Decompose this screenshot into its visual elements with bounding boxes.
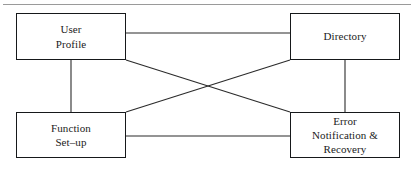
- architecture-diagram: User Profile Directory Function Set–up E…: [0, 0, 414, 172]
- node-error-recovery-label: Error Notification & Recovery: [309, 114, 381, 156]
- node-function-setup: Function Set–up: [16, 112, 126, 158]
- node-function-setup-label: Function Set–up: [48, 121, 94, 149]
- node-user-profile-label: User Profile: [53, 22, 90, 50]
- node-user-profile: User Profile: [16, 13, 126, 60]
- node-directory-label: Directory: [320, 29, 369, 43]
- node-directory: Directory: [290, 13, 400, 60]
- node-error-recovery: Error Notification & Recovery: [290, 112, 400, 158]
